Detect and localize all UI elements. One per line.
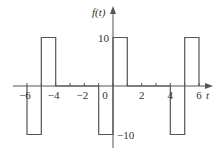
x-tick-label: 4 [168,89,174,101]
x-axis-label: t [206,89,210,101]
x-tick-label: −2 [76,89,88,101]
x-tick-label: 2 [139,89,145,101]
x-tick-label: 0 [102,89,108,101]
y-axis-label: f(t) [92,6,106,19]
waveform-plot: −6−4−2024610−10 f(t) t [0,0,221,151]
chart: −6−4−2024610−10 f(t) t [0,0,221,151]
x-tick-label: 6 [196,89,202,101]
x-tick-label: −4 [48,89,60,101]
y-tick-label: 10 [98,32,110,44]
y-tick-label: −10 [117,129,135,141]
x-tick-label: −6 [19,89,31,101]
y-axis-arrow-icon [110,6,116,14]
